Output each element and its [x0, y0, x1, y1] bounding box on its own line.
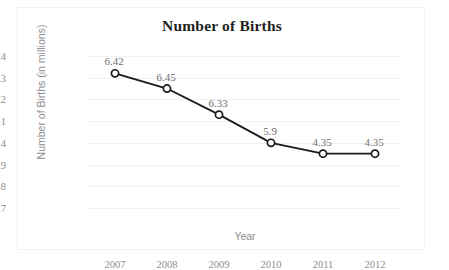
y-axis-tick-label: 3.9	[0, 159, 6, 170]
y-axis-tick-label: 4.2	[0, 94, 6, 105]
y-axis-title: Number of Births (in millions)	[35, 0, 47, 187]
x-axis-title: Year	[89, 230, 401, 242]
data-point-label: 4.35	[312, 136, 331, 148]
series-markers	[111, 70, 378, 158]
y-axis-tick-label: 3.7	[0, 203, 6, 214]
series-polyline	[115, 73, 375, 153]
y-axis-tick-label: 4.3	[0, 72, 6, 83]
data-point-label: 6.33	[208, 97, 227, 109]
x-axis-tick-label: 2011	[293, 259, 353, 270]
data-point-label: 5.9	[263, 125, 277, 137]
chart-title: Number of Births	[18, 17, 426, 35]
x-axis-tick-label: 2008	[137, 259, 197, 270]
plot-area: 4.44.34.24.143.93.83.7 6.426.456.335.94.…	[89, 56, 401, 208]
data-point-label: 6.42	[104, 55, 123, 67]
data-point-marker	[319, 150, 326, 157]
line-series	[89, 56, 401, 208]
x-axis-tick-label: 2009	[189, 259, 249, 270]
data-point-marker	[215, 111, 222, 118]
data-point-marker	[111, 70, 118, 77]
data-point-marker	[371, 150, 378, 157]
x-axis-tick-label: 2010	[241, 259, 301, 270]
data-point-marker	[267, 139, 274, 146]
gridline	[89, 208, 401, 209]
y-axis-tick-label: 3.8	[0, 181, 6, 192]
x-axis-tick-label: 2007	[85, 259, 145, 270]
data-point-label: 6.45	[156, 71, 175, 83]
y-axis-tick-label: 4.4	[0, 51, 6, 62]
x-axis-tick-label: 2012	[345, 259, 405, 270]
data-point-marker	[163, 85, 170, 92]
data-point-label: 4.35	[364, 136, 383, 148]
y-axis-tick-label: 4.1	[0, 116, 6, 127]
chart-frame: Number of Births Number of Births (in mi…	[17, 7, 425, 250]
y-axis-tick-label: 4	[0, 137, 6, 148]
